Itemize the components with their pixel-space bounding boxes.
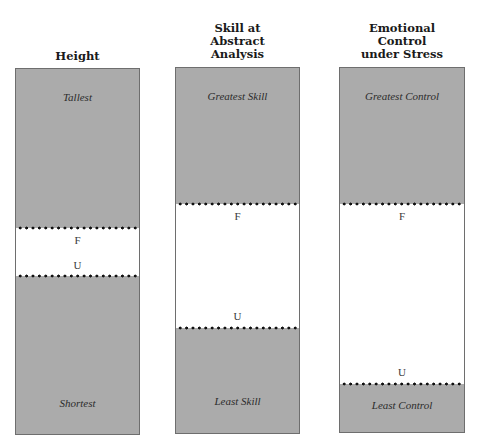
upper-marker-f: F [176, 210, 299, 222]
height-scale-box: Tallest F U Shortest [15, 68, 140, 435]
shaded-region-top [176, 68, 299, 204]
column-title-abstract-analysis: Skill at Abstract Analysis [175, 22, 300, 61]
abstract-analysis-scale-box: Greatest Skill F U Least Skill [175, 67, 300, 434]
top-label: Greatest Skill [176, 90, 299, 102]
shaded-region-bottom [176, 328, 299, 433]
upper-dotted-line [176, 202, 299, 206]
lower-dotted-line [176, 326, 299, 330]
bottom-label: Least Control [340, 399, 464, 411]
bottom-label: Least Skill [176, 395, 299, 407]
bottom-label: Shortest [16, 397, 139, 409]
lower-marker-u: U [16, 259, 139, 271]
upper-dotted-line [340, 202, 464, 206]
top-label: Tallest [16, 91, 139, 103]
lower-marker-u: U [340, 366, 464, 378]
column-title-emotional-control: Emotional Control under Stress [339, 22, 465, 61]
shaded-region-top [340, 68, 464, 204]
shaded-region-bottom [16, 276, 139, 434]
column-title-height: Height [15, 50, 140, 63]
lower-marker-u: U [176, 310, 299, 322]
upper-dotted-line [16, 226, 139, 230]
upper-marker-f: F [16, 234, 139, 246]
lower-dotted-line [340, 382, 464, 386]
upper-marker-f: F [340, 210, 464, 222]
top-label: Greatest Control [340, 90, 464, 102]
emotional-control-scale-box: Greatest Control F U Least Control [339, 67, 465, 433]
lower-dotted-line [16, 274, 139, 278]
